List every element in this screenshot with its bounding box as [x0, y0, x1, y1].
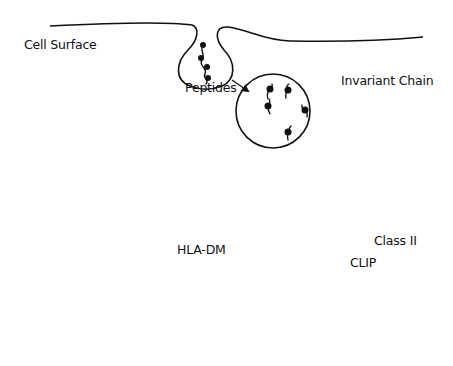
label-cell-surface: Cell Surface [24, 37, 97, 52]
endosome [236, 74, 310, 148]
mhc-class-ii-diagram [0, 0, 453, 366]
label-class-ii: Class II [374, 233, 417, 248]
label-invariant-chain: Invariant Chain [341, 73, 433, 88]
label-peptides: Peptides [185, 80, 237, 95]
peptide-icons [267, 84, 274, 99]
protein-chain-icon [198, 42, 211, 84]
label-hla-dm: HLA-DM [177, 242, 226, 257]
label-clip: CLIP [350, 255, 376, 270]
peptide-icons-2 [265, 84, 309, 140]
